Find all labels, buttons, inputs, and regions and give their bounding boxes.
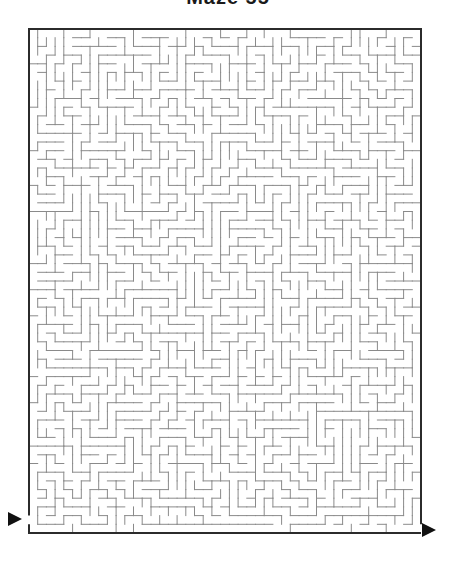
maze-walls — [29, 29, 421, 533]
maze-grid — [0, 0, 456, 561]
maze-border — [29, 29, 421, 533]
entrance-arrow-icon — [8, 512, 22, 526]
maze-page: Maze 55 — [0, 0, 456, 561]
exit-arrow-icon — [422, 523, 436, 537]
